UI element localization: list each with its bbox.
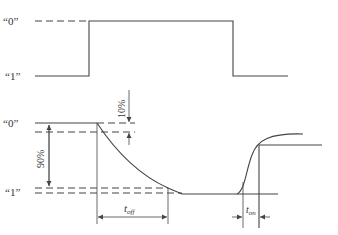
ninety-percent-label: 90% xyxy=(35,150,46,168)
input-level-0-label: “0” xyxy=(3,15,18,27)
output-waveform: “0” “1” 90% 10% toff ton xyxy=(3,90,322,228)
input-pulse xyxy=(35,21,288,76)
turn-on-curve xyxy=(237,134,303,194)
t-on-label: ton xyxy=(246,204,256,217)
input-level-1-label: “1” xyxy=(5,70,20,82)
switching-waveform-diagram: “0” “1” “0” “1” 90% 10% toff xyxy=(0,0,338,235)
ten-percent-label: 10% xyxy=(116,100,127,118)
t-off-label: toff xyxy=(124,202,136,216)
turn-on-step-line xyxy=(259,145,322,228)
input-waveform: “0” “1” xyxy=(3,15,288,82)
output-level-1-label: “1” xyxy=(5,186,20,198)
output-level-0-label: “0” xyxy=(3,117,18,129)
